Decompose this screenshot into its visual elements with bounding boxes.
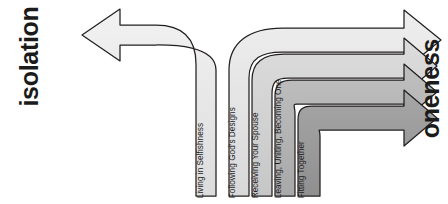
band-label-oneness-2: Receiving Your Spouse [252,112,260,198]
isolation-heading: isolation [17,6,42,106]
curved-arrows-graphic [0,0,448,204]
band-label-oneness-3: Leaving, Uniting, Becoming One [275,79,283,198]
band-label-oneness-1: Following God's Designs [229,107,237,198]
band-label-oneness-4: Fitting Together [298,141,306,198]
band-label-isolation: Living in Selfishness [197,123,205,198]
oneness-heading: oneness [418,39,443,138]
diagram-canvas: Living in Selfishness Following God's De… [0,0,448,204]
